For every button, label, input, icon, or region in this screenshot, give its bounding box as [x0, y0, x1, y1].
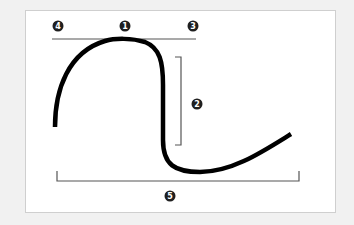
- marker-1: 1: [120, 21, 131, 32]
- vertical-bracket: [175, 57, 181, 145]
- horizontal-bracket: [57, 171, 299, 181]
- marker-5: 5: [165, 191, 176, 202]
- marker-3: 3: [188, 21, 199, 32]
- marker-4: 4: [53, 21, 64, 32]
- s-curve: [55, 39, 291, 172]
- marker-2: 2: [192, 99, 203, 110]
- diagram-canvas: [0, 0, 354, 225]
- diagram-stage: 4 1 3 2 5: [0, 0, 354, 225]
